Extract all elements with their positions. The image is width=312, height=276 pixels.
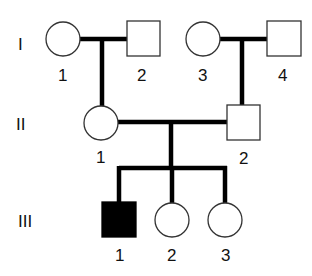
generation-label-I: I xyxy=(18,35,23,54)
individual-number-II-1: 1 xyxy=(96,148,105,167)
generation-label-II: II xyxy=(16,115,25,134)
individual-III-3-female xyxy=(208,203,242,237)
individual-I-1-female xyxy=(46,22,80,56)
individual-II-1-female xyxy=(84,106,118,140)
individual-III-1-male-affected xyxy=(102,202,136,237)
individual-number-III-3: 3 xyxy=(221,246,230,265)
pedigree-chart: I II III 1 2 3 4 1 2 1 2 3 xyxy=(0,0,312,276)
individual-III-2-female xyxy=(155,203,189,237)
individual-number-I-1: 1 xyxy=(58,66,67,85)
individual-number-I-4: 4 xyxy=(278,66,287,85)
generation-label-III: III xyxy=(18,212,32,231)
individual-number-I-2: 2 xyxy=(137,66,146,85)
individual-number-II-2: 2 xyxy=(239,149,248,168)
individual-I-4-male xyxy=(267,21,301,56)
individual-I-3-female xyxy=(186,22,220,56)
individual-number-I-3: 3 xyxy=(198,66,207,85)
individual-II-2-male xyxy=(227,105,260,140)
individual-number-III-2: 2 xyxy=(167,246,176,265)
individual-I-2-male xyxy=(127,21,160,56)
individual-number-III-1: 1 xyxy=(115,246,124,265)
